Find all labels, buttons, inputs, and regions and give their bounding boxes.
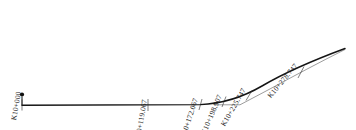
station-label-2: K10+172.067 xyxy=(178,97,200,130)
alignment-canvas: K10+000 K10+119.067 K10+172.067 K10+198.… xyxy=(0,0,356,130)
station-tick-5 xyxy=(298,67,304,79)
station-label-1: K10+119.067 xyxy=(133,99,149,130)
station-label-4: K10+225.747 xyxy=(219,86,248,127)
station-label-0: K10+000 xyxy=(9,91,23,121)
alignment-drawing: K10+000 K10+119.067 K10+172.067 K10+198.… xyxy=(0,0,356,130)
alignment-centerline xyxy=(22,49,345,106)
